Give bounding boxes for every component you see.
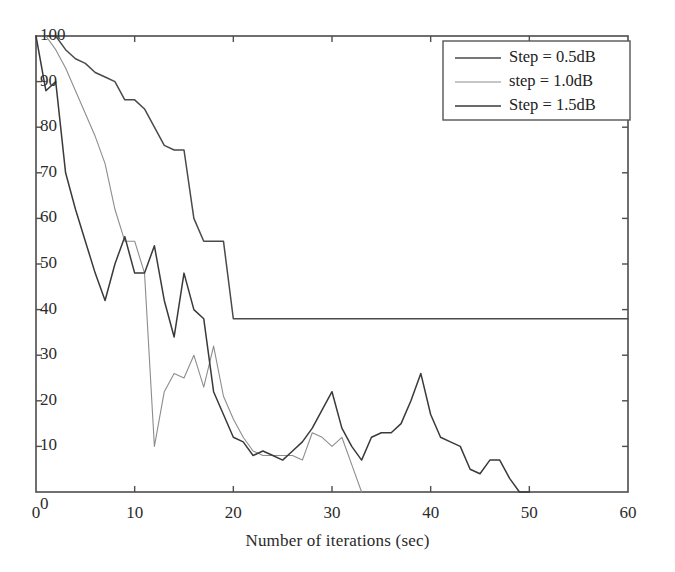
x-tick-label: 20 [213, 503, 253, 523]
legend-label-2: Step = 1.5dB [509, 95, 596, 115]
y-tick-label: 60 [40, 207, 74, 227]
y-tick-label: 50 [40, 253, 74, 273]
y-tick-label: 90 [40, 71, 74, 91]
y-tick-label-zero: 0 [40, 494, 49, 514]
legend-label-0: Step = 0.5dB [509, 47, 596, 67]
x-tick-label: 50 [509, 503, 549, 523]
series-line-1 [36, 36, 362, 492]
y-tick-label: 80 [40, 116, 74, 136]
y-tick-label: 100 [40, 25, 74, 45]
y-tick-label: 20 [40, 390, 74, 410]
x-axis-title: Number of iterations (sec) [0, 531, 675, 551]
y-tick-label: 70 [40, 162, 74, 182]
x-tick-label: 10 [115, 503, 155, 523]
legend-label-1: step = 1.0dB [509, 71, 593, 91]
x-tick-label: 30 [312, 503, 352, 523]
x-tick-label: 40 [411, 503, 451, 523]
y-tick-label: 40 [40, 299, 74, 319]
y-tick-label: 30 [40, 344, 74, 364]
x-tick-label: 60 [608, 503, 648, 523]
y-tick-label: 10 [40, 435, 74, 455]
x-tick-label: 0 [16, 503, 56, 523]
